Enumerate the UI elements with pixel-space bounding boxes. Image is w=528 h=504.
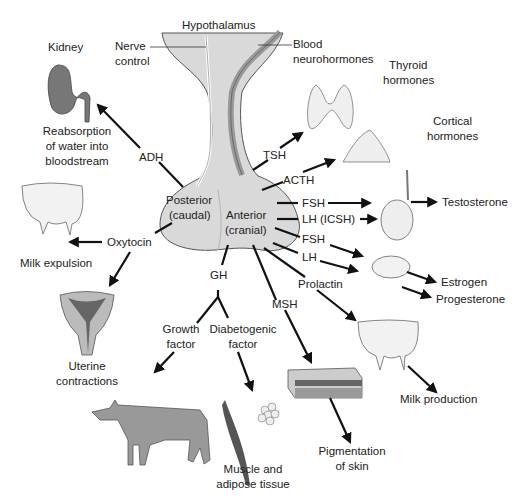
testosterone-label: Testosterone <box>442 195 508 209</box>
nerve-control-label-line1: Nerve <box>115 39 146 53</box>
hypothalamus-label: Hypothalamus <box>182 18 256 32</box>
cortical-hormones-label-line1: Cortical <box>433 114 472 128</box>
blood-label-line2: neurohormones <box>293 52 374 66</box>
lh-icsh-label: LH (ICSH) <box>302 212 355 226</box>
milk-production-label: Milk production <box>400 392 477 406</box>
pituitary-diagram: Hypothalamus Nerve control Blood neuroho… <box>0 0 528 504</box>
acth-label: ACTH <box>283 173 314 187</box>
muscle-adipose-label-line1: Muscle and <box>212 462 294 476</box>
gh-label: GH <box>210 268 227 282</box>
msh-label: MSH <box>272 297 298 311</box>
blood-label-line1: Blood <box>293 37 322 51</box>
thyroid-icon <box>308 85 354 129</box>
cow-icon <box>92 400 210 465</box>
testis-icon <box>381 170 413 240</box>
diabetogenic-label-line1: Diabetogenic <box>208 322 278 336</box>
ovary-icon <box>372 256 410 278</box>
adh-label: ADH <box>139 150 163 164</box>
diabetogenic-label-line2: factor <box>208 337 278 351</box>
posterior-label-line1: Posterior <box>166 193 212 207</box>
muscle-adipose-label-line2: adipose tissue <box>212 477 294 491</box>
nerve-control-label-line2: control <box>115 54 150 68</box>
kidney-icon <box>48 65 90 122</box>
milk-expulsion-label: Milk expulsion <box>20 256 92 270</box>
thyroid-hormones-label-line1: Thyroid <box>389 58 427 72</box>
cortical-hormones-label-line2: hormones <box>427 129 478 143</box>
tsh-label: TSH <box>263 148 286 162</box>
pigmentation-label-line2: of skin <box>315 459 389 473</box>
reabsorption-label-line1: Reabsorption <box>38 124 116 138</box>
uterus-icon <box>60 292 114 356</box>
adrenal-gland-icon <box>343 130 390 162</box>
fsh-female-label: FSH <box>302 232 325 246</box>
thyroid-hormones-label-line2: hormones <box>383 73 434 87</box>
posterior-label-line2: (caudal) <box>169 208 211 222</box>
pigmentation-label-line1: Pigmentation <box>315 444 389 458</box>
kidney-label: Kidney <box>48 40 83 54</box>
prolactin-label: Prolactin <box>298 277 343 291</box>
anterior-label-line1: Anterior <box>226 208 266 222</box>
fsh-male-label: FSH <box>302 196 325 210</box>
udder-right-icon <box>358 320 418 370</box>
udder-left-icon <box>22 183 83 235</box>
uterine-label-line2: contractions <box>50 374 124 388</box>
adipose-cells-icon <box>258 403 279 425</box>
skin-section-icon <box>288 368 362 398</box>
oxytocin-label: Oxytocin <box>107 235 152 249</box>
growth-factor-label-line1: Growth <box>162 322 200 336</box>
progesterone-label: Progesterone <box>436 292 505 306</box>
reabsorption-label-line2: of water into <box>38 139 116 153</box>
reabsorption-label-line3: bloodstream <box>38 154 116 168</box>
estrogen-label: Estrogen <box>441 275 487 289</box>
uterine-label-line1: Uterine <box>50 359 124 373</box>
growth-factor-label-line2: factor <box>162 337 200 351</box>
anterior-label-line2: (cranial) <box>225 223 267 237</box>
lh-female-label: LH <box>302 250 317 264</box>
